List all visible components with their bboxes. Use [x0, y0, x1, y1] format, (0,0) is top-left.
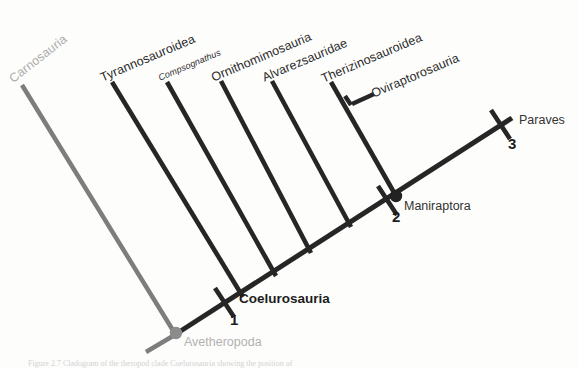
- cladogram-figure: Carnosauria Tyrannosauroidea Compsognath…: [0, 0, 579, 368]
- node-number-2: 2: [392, 209, 400, 224]
- figure-caption: Figure 2.7 Cladogram of the theropod cla…: [28, 359, 292, 368]
- branch-oviraptorosauria: [352, 94, 374, 104]
- node-label-coelurosauria: Coelurosauria: [239, 292, 330, 306]
- cladogram-svg: [0, 0, 579, 368]
- node-label-avetheropoda: Avetheropoda: [184, 336, 262, 349]
- node-label-maniraptora: Maniraptora: [404, 200, 471, 213]
- node-number-3: 3: [508, 136, 516, 151]
- node-avetheropoda-circle: [170, 327, 182, 339]
- branch-ornithomimosauria: [221, 81, 311, 253]
- node-number-1: 1: [230, 312, 238, 327]
- node-maniraptora-circle: [390, 190, 402, 202]
- branch-compsognathus: [167, 82, 276, 276]
- tip-label-paraves: Paraves: [519, 114, 565, 127]
- branch-carnosauria: [22, 85, 174, 332]
